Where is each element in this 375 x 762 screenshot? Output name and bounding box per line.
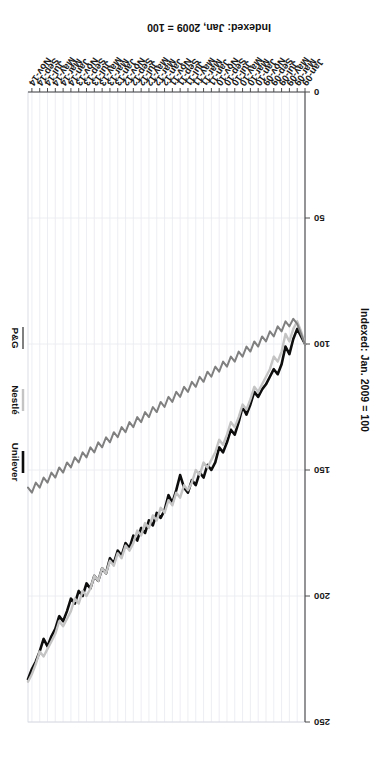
watermark-text: . . . [122,60,137,72]
legend-label: Nestlé [10,385,21,415]
value-tick-label: 100 [314,339,330,350]
legend-entry: Unilever [10,443,23,482]
legend-entry: P&G [10,327,23,349]
legend-entry: Nestlé [10,385,23,415]
legend-label: P&G [10,327,21,349]
chart-screenshot: Indexed: Jan. 2009 = 100 Indexed: Jan, 2… [0,0,375,762]
legend-label: Unilever [10,443,21,482]
chart-background [0,0,375,762]
value-axis-title-secondary: Indexed: Jan, 2009 = 100 [147,22,271,34]
value-axis-title-primary: Indexed: Jan. 2009 = 100 [359,308,371,432]
value-tick-label: 150 [314,465,330,476]
value-tick-label: 250 [314,717,330,728]
value-tick-label: 200 [314,591,330,602]
line-chart: Indexed: Jan. 2009 = 100 Indexed: Jan, 2… [0,0,375,762]
rotated-figure-container: Indexed: Jan. 2009 = 100 Indexed: Jan, 2… [0,0,375,762]
value-tick-label: 50 [314,213,325,224]
value-tick-label: 0 [314,87,319,98]
